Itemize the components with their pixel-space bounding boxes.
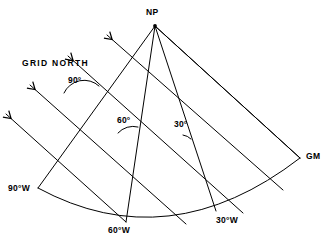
grid-north-label: GRID NORTH <box>22 59 89 68</box>
diagram-canvas: NP GRID NORTH GM 90° 60° 30° 90°W 60°W 3… <box>0 0 336 249</box>
grid-line-2 <box>107 35 283 190</box>
angle-label-30: 30° <box>174 120 187 129</box>
angle-arc-30 <box>183 135 191 139</box>
grid-line-5 <box>6 114 126 222</box>
grid-line-3 <box>68 56 243 213</box>
greenwich-meridian-label: GM <box>306 152 321 161</box>
meridian-line-90w <box>38 26 155 188</box>
angle-label-90: 90° <box>68 76 81 85</box>
angle-arc-60 <box>118 126 138 133</box>
grid-line-4 <box>30 85 186 224</box>
meridian-label-30w: 30°W <box>216 216 238 225</box>
grid-convergence-diagram <box>0 0 336 249</box>
meridian-label-60w: 60°W <box>108 226 130 235</box>
pole-label: NP <box>146 8 159 17</box>
angle-label-60: 60° <box>117 116 130 125</box>
meridian-label-90w: 90°W <box>8 184 30 193</box>
pole-point <box>153 24 157 28</box>
